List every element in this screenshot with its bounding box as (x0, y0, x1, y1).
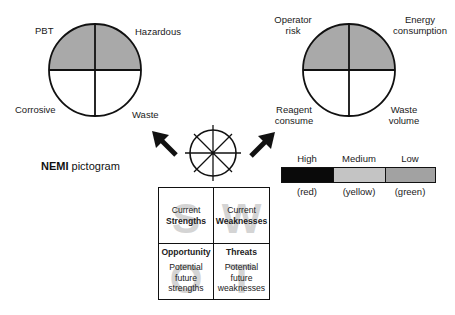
swot-cell-weaknesses: W Current Weaknesses (214, 188, 269, 244)
legend-swatch-medium (333, 168, 385, 182)
segmented-circle-icon (185, 125, 241, 181)
label-energy-consumption-line1: Energy (385, 14, 455, 25)
legend-level-medium: Medium (333, 153, 385, 164)
arrow-up-left-icon (152, 131, 176, 155)
arrow-up-right-icon (251, 132, 275, 156)
threats-line2: future (214, 273, 269, 284)
nemi-caption-rest: pictogram (69, 160, 120, 172)
nemi-pictogram-circle (49, 24, 141, 116)
legend-swatch-high (282, 168, 333, 182)
swot-grid: S Current Strengths W Current Weaknesses… (158, 187, 270, 300)
legend-color-red: (red) (281, 186, 333, 197)
threats-title: Threats (214, 247, 269, 258)
opportunity-line2: future (159, 273, 213, 284)
label-operator-risk-line2: risk (265, 25, 321, 36)
segment-center-dot (211, 151, 215, 155)
threats-line3: weaknesses (214, 283, 269, 294)
weaknesses-line1: Current (214, 205, 269, 216)
legend-level-low: Low (384, 153, 436, 164)
legend-level-high: High (281, 153, 333, 164)
swot-cell-threats: T Threats Potential future weaknesses (214, 244, 269, 300)
label-operator-risk-line1: Operator (265, 14, 321, 25)
label-waste: Waste (132, 109, 159, 120)
label-reagent-consume-line1: Reagent (266, 104, 322, 115)
label-corrosive: Corrosive (15, 104, 56, 115)
nemi-pictogram-caption: NEMI pictogram (41, 160, 120, 172)
label-waste-volume-line1: Waste (379, 104, 429, 115)
label-waste-volume: Waste volume (379, 104, 429, 126)
label-energy-consumption: Energy consumption (385, 14, 455, 36)
opportunity-title: Opportunity (159, 247, 213, 258)
opportunity-line1: Potential (159, 262, 213, 273)
label-energy-consumption-line2: consumption (385, 25, 455, 36)
label-waste-volume-line2: volume (379, 115, 429, 126)
weaknesses-title: Weaknesses (214, 216, 269, 227)
label-operator-risk: Operator risk (265, 14, 321, 36)
nemi-caption-bold: NEMI (41, 160, 69, 172)
threats-line1: Potential (214, 262, 269, 273)
strengths-line1: Current (159, 205, 213, 216)
swot-cell-strengths: S Current Strengths (159, 188, 214, 244)
label-hazardous: Hazardous (135, 26, 181, 37)
legend-color-yellow: (yellow) (333, 186, 385, 197)
legend-swatch-low (385, 168, 435, 182)
green-assessment-circle (303, 24, 395, 116)
opportunity-line3: strengths (159, 283, 213, 294)
swot-cell-opportunity: O Opportunity Potential future strengths (159, 244, 214, 300)
label-reagent-consume: Reagent consume (266, 104, 322, 126)
legend-color-green: (green) (384, 186, 436, 197)
label-reagent-consume-line2: consume (266, 115, 322, 126)
label-pbt: PBT (35, 25, 53, 36)
legend-color-bar (281, 167, 436, 183)
strengths-title: Strengths (159, 216, 213, 227)
